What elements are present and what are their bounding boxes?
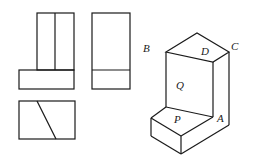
top-view — [19, 101, 75, 139]
label-B: B — [143, 42, 150, 54]
top-face-D — [166, 33, 229, 62]
top-view-diagonal — [37, 101, 56, 139]
side-view — [92, 13, 130, 89]
isometric-solid: B D C Q P A — [143, 33, 239, 154]
bottom-right-edge — [181, 125, 229, 154]
bottom-left-edge — [151, 136, 181, 154]
p-face-front-edge — [181, 117, 213, 136]
label-D: D — [200, 45, 209, 57]
side-view-outline — [92, 13, 130, 89]
label-C: C — [231, 40, 239, 52]
front-view — [19, 13, 74, 89]
technical-drawing: B D C Q P A — [0, 0, 253, 162]
label-Q: Q — [176, 79, 184, 91]
p-face-back-left-edge — [151, 107, 166, 118]
label-A: A — [216, 112, 224, 124]
label-P: P — [173, 113, 181, 125]
front-view-base — [19, 70, 74, 89]
